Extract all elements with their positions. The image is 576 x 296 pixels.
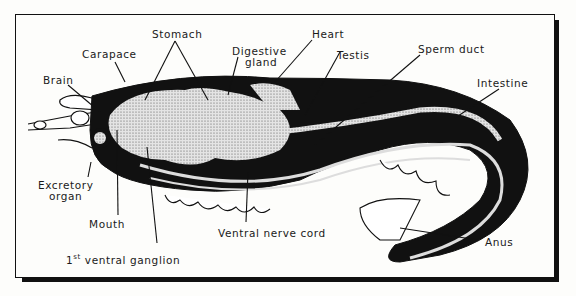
label-heart: Heart [312,29,344,40]
label-carapace: Carapace [82,49,137,60]
label-excretory-organ-2: organ [49,191,82,202]
label-digestive-gland-2: gland [245,57,277,68]
label-testis: Testis [337,50,370,61]
label-mouth: Mouth [89,219,125,230]
label-ventral-nerve-cord: Ventral nerve cord [218,228,326,239]
svg-text:♩: ♩ [509,204,512,212]
label-stomach: Stomach [152,29,203,40]
label-sperm-duct: Sperm duct [418,44,485,55]
label-intestine: Intestine [477,78,528,89]
label-anus: Anus [485,237,513,248]
label-brain: Brain [43,75,74,86]
label-first-ventral-ganglion: 1st ventral ganglion [66,252,180,266]
